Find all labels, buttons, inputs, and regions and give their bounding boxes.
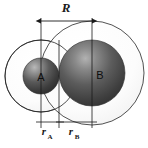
dimension-subscript-rA: A (47, 133, 52, 141)
dimension-label-rA: r (42, 125, 47, 137)
dimension-subscript-rB: B (75, 133, 80, 141)
diagram-canvas: A B R r A r B (0, 0, 148, 148)
dimension-label-R: R (61, 0, 71, 15)
sphere-contact-diagram: A B R r A r B (0, 0, 148, 148)
dimension-label-rB: r (69, 125, 74, 137)
sphere-b-label: B (96, 69, 103, 81)
